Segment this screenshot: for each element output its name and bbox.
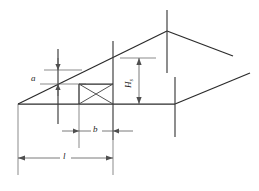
dim-H-label-group: H s	[123, 79, 134, 90]
braced-panel-group	[79, 84, 113, 104]
left-sloped-chord	[18, 31, 167, 104]
structure-group	[18, 10, 250, 175]
dim-l-left-arrowhead	[18, 155, 25, 160]
dimension-H-group: H s	[120, 58, 156, 104]
right-sloped-chord	[167, 31, 233, 56]
dim-H-bottom-arrowhead	[136, 97, 141, 104]
base-line-right-extension	[175, 73, 250, 104]
dim-b-left-arrowhead	[73, 128, 79, 133]
dim-H-top-arrowhead	[136, 58, 141, 65]
dimension-diagram-svg: a H s b	[0, 0, 259, 191]
dimension-l-group: l	[18, 151, 113, 161]
dim-a-label: a	[31, 73, 36, 83]
dim-b-right-arrowhead	[113, 128, 119, 133]
dim-l-right-arrowhead	[106, 155, 113, 160]
diagram-canvas: a H s b	[0, 0, 259, 191]
dimension-b-group: b	[62, 124, 133, 134]
dim-a-upper-arrowhead	[55, 64, 60, 70]
dim-b-label: b	[93, 124, 98, 134]
dim-H-subscript: s	[128, 79, 134, 82]
